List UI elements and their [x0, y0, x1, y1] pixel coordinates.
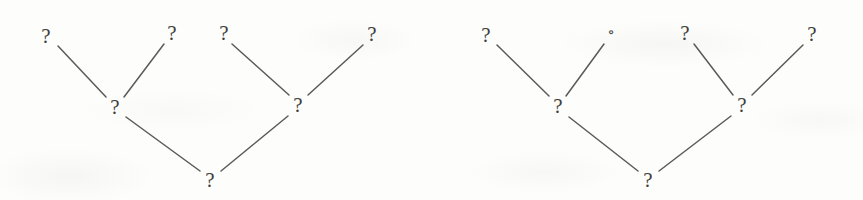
tree-node-leaf: ?	[41, 26, 50, 47]
tree-node-root: ?	[205, 170, 214, 191]
tree-node-internal: ?	[553, 96, 562, 117]
tree-node-leaf: ?	[367, 24, 376, 45]
tree-node-leaf: ?	[167, 23, 176, 44]
tree-node-leaf: ?	[807, 24, 816, 45]
tree-node-leaf: ?	[680, 23, 689, 44]
tree-node-internal: ?	[293, 95, 302, 116]
tree-node-layer: ????????∘?????	[0, 0, 863, 200]
diagram-canvas: ????????∘?????	[0, 0, 863, 200]
tree-node-leaf: ?	[219, 23, 228, 44]
tree-node-leaf: ?	[481, 25, 490, 46]
tree-node-root: ?	[643, 170, 652, 191]
tree-node-internal: ?	[110, 97, 119, 118]
circle-node-marker: ∘	[607, 25, 614, 40]
tree-node-internal: ?	[737, 95, 746, 116]
